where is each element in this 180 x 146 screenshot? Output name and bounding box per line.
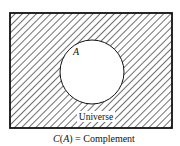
caption: C(A) = Complement <box>53 133 135 145</box>
venn-diagram: A Universe C(A) = Complement <box>0 0 180 146</box>
universe-label: Universe <box>79 112 113 122</box>
set-a-circle <box>60 40 124 104</box>
set-a-label: A <box>72 46 80 57</box>
caption-rest: = Complement <box>73 133 136 144</box>
